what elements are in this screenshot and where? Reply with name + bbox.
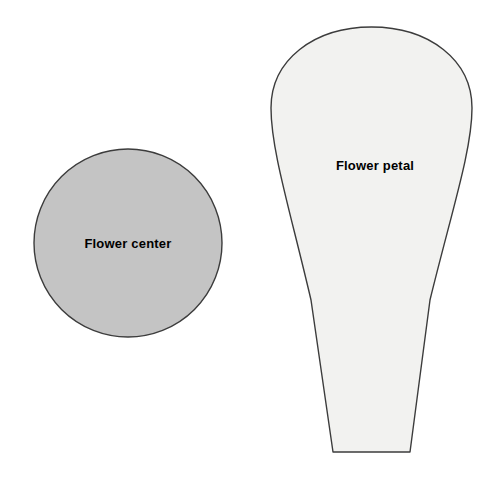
shapes-illustration: Flower center Flower petal [0,0,500,479]
flower-petal-outline[interactable] [271,27,472,452]
template-canvas: Flower center Flower petal [0,0,500,479]
flower-petal-shape[interactable]: Flower petal [271,27,472,452]
flower-center-label: Flower center [84,236,171,251]
flower-center-shape[interactable]: Flower center [34,149,222,337]
flower-petal-label: Flower petal [336,158,414,173]
